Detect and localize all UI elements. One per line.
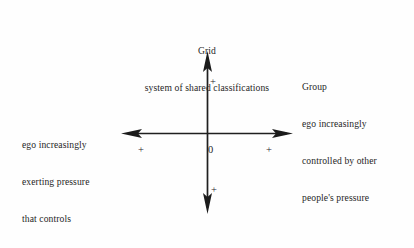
plus-marker-right: + xyxy=(266,145,272,156)
plus-marker-bottom: + xyxy=(211,185,217,196)
ego-pressure-label-line1: ego increasingly xyxy=(22,139,90,151)
group-axis-label-line4: people's pressure xyxy=(302,192,377,204)
origin-marker: 0 xyxy=(208,145,213,156)
private-classification-label: private system of classification xyxy=(0,224,414,248)
ego-pressure-label-line2: exerting pressure xyxy=(22,176,90,188)
group-axis-label-line2: ego increasingly xyxy=(302,118,377,130)
group-axis-label-line1: Group xyxy=(302,81,377,93)
plus-marker-left: + xyxy=(138,145,144,156)
plus-marker-top: + xyxy=(210,77,216,88)
group-axis-label-line3: controlled by other xyxy=(302,155,377,167)
group-axis-label: Group ego increasingly controlled by oth… xyxy=(302,56,377,230)
grid-group-diagram: Grid system of shared classifications Gr… xyxy=(0,0,414,248)
